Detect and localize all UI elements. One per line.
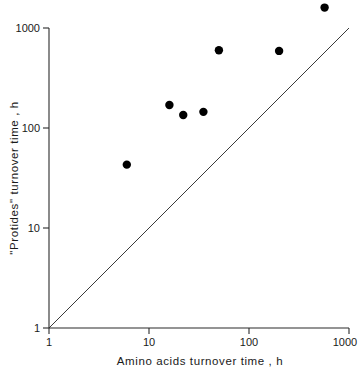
x-axis-title: Amino acids turnover time , h xyxy=(117,355,283,367)
x-tick-label-10: 10 xyxy=(143,336,155,348)
data-point xyxy=(179,111,187,119)
data-points-layer xyxy=(123,3,329,168)
identity-line xyxy=(49,28,349,328)
data-point xyxy=(165,101,173,109)
data-point xyxy=(320,3,328,11)
y-tick-label-1: 1 xyxy=(34,322,40,334)
data-point xyxy=(215,46,223,54)
x-axis-tick-labels: 1 10 100 1000 xyxy=(46,336,357,348)
identity-line-group xyxy=(49,28,349,328)
x-tick-label-1000: 1000 xyxy=(333,336,357,348)
x-axis-ticks xyxy=(49,328,349,334)
y-axis-title: "Protides" turnover time , h xyxy=(8,101,20,254)
x-tick-label-100: 100 xyxy=(240,336,258,348)
data-point xyxy=(199,108,207,116)
y-axis-ticks xyxy=(43,28,49,328)
plot-canvas: 1000 100 10 1 1 10 100 1000 Amino acids … xyxy=(0,0,363,372)
data-point xyxy=(275,47,283,55)
scatter-plot-figure: 1000 100 10 1 1 10 100 1000 Amino acids … xyxy=(0,0,363,372)
y-tick-label-100: 100 xyxy=(22,122,40,134)
x-tick-label-1: 1 xyxy=(46,336,52,348)
data-point xyxy=(123,160,131,168)
y-tick-label-10: 10 xyxy=(28,222,40,234)
y-tick-label-1000: 1000 xyxy=(16,22,40,34)
